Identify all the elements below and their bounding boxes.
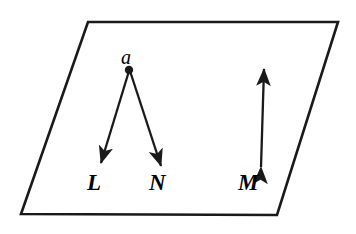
vector-M-arrow	[261, 69, 264, 167]
vector-L-arrow	[101, 71, 129, 163]
figure-canvas: a L N M	[0, 0, 356, 234]
vector-N-label: N	[149, 171, 166, 194]
vector-N-arrow	[130, 71, 161, 166]
geometry-diagram	[0, 0, 356, 234]
vector-M-label: M	[238, 171, 258, 194]
plane-parallelogram	[21, 22, 338, 215]
point-a-label: a	[121, 47, 131, 67]
vector-L-label: L	[87, 171, 101, 194]
